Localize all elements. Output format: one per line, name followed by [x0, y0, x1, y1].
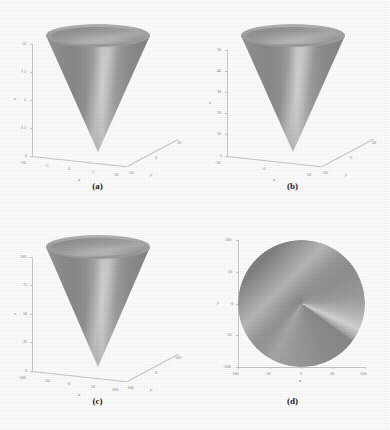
panel-a-zticklabel-5: 5: [24, 97, 26, 102]
panel-c-xticklabel-50: 50: [91, 384, 95, 389]
panel-d-xtick-2: [302, 367, 303, 369]
panel-d-xticklabel-m100: -100: [231, 371, 239, 376]
panel-a-xticklabel-10: 10: [114, 172, 118, 177]
panel-d-yticklabel-100: 100: [225, 237, 231, 242]
panel-c-xticklabel-0: 0: [68, 381, 70, 386]
cone-rim-inner: [51, 238, 146, 257]
panel-c-ztick-1: [30, 285, 32, 286]
panel-c-ztick-3: [30, 342, 32, 343]
cone-inner-shading: [247, 29, 339, 44]
panel-b-zticklabel-50: 50: [217, 47, 221, 52]
panel-a-yticklabel-m10: -10: [128, 170, 134, 175]
panel-c-y-axis: [127, 354, 179, 382]
panel-d-yticklabel-m50: -50: [226, 332, 232, 337]
panel-a-cone-surface: [46, 24, 150, 152]
panel-d-xticklabel-50: 50: [330, 371, 334, 376]
panel-c-xticklabel-m50: -50: [44, 378, 50, 383]
panel-c-zticklabel-50: 50: [23, 311, 27, 316]
panel-b-z-axis-label: z: [209, 100, 211, 105]
cone-inner-shading: [52, 29, 144, 44]
cone-body: [46, 235, 150, 367]
panel-d-ytick-0: [236, 240, 238, 241]
panel-a-xticklabel-m10: -10: [20, 160, 26, 165]
panel-a-zticklabel-2_5: 2.5: [21, 125, 26, 130]
cone-rim-outer: [241, 24, 345, 47]
panel-a-ztick-3: [30, 128, 32, 129]
panel-c: 100 75 50 25 0 z -100 -50 0 50 100 x -10…: [0, 215, 195, 430]
panel-b-ztick-3: [225, 113, 227, 114]
panel-c-xticklabel-m100: -100: [18, 375, 26, 380]
panel-a-ztick-2: [30, 100, 32, 101]
panel-c-plot: 100 75 50 25 0 z -100 -50 0 50 100 x -10…: [0, 215, 195, 405]
cone-rim-outer: [46, 235, 150, 259]
figure-canvas: 10 7.5 5 2.5 0 z -10 -5 0 5 10 x -10 0 1…: [0, 0, 390, 430]
panel-c-caption: (c): [0, 396, 195, 406]
panel-a-zticklabel-10: 10: [22, 41, 26, 46]
panel-d-xticklabel-100: 100: [360, 371, 366, 376]
panel-a-y-axis-label: y: [150, 172, 152, 177]
panel-d-xtick-3: [333, 367, 334, 369]
panel-a-ztick-1: [30, 72, 32, 73]
panel-a-xticklabel-0: 0: [68, 166, 70, 171]
cone-body: [241, 24, 345, 152]
panel-b-xticklabel-m50: -50: [215, 160, 221, 165]
panel-a-zticklabel-7_5: 7.5: [21, 69, 26, 74]
panel-c-zticklabel-75: 75: [23, 282, 27, 287]
cone-inner-shading: [52, 240, 144, 256]
panel-a: 10 7.5 5 2.5 0 z -10 -5 0 5 10 x -10 0 1…: [0, 0, 195, 215]
panel-c-z-axis: [32, 257, 33, 371]
panel-b-caption: (b): [195, 181, 390, 191]
panel-d-xticklabel-m50: -50: [265, 371, 271, 376]
panel-b-y-axis: [322, 139, 374, 167]
panel-b-zticklabel-30: 30: [217, 89, 221, 94]
panel-b-zticklabel-0: 0: [220, 153, 222, 158]
panel-b-ztick-0: [225, 50, 227, 51]
panel-b-x-axis: [227, 156, 322, 167]
panel-d-xticklabel-0: 0: [300, 371, 302, 376]
panel-c-ztick-0: [30, 257, 32, 258]
panel-b-yticklabel-50: 50: [372, 140, 376, 145]
panel-b-xticklabel-50: 50: [307, 172, 311, 177]
panel-b-zticklabel-40: 40: [217, 68, 221, 73]
panel-b-zticklabel-10: 10: [217, 131, 221, 136]
disc-vignette: [238, 240, 365, 367]
panel-a-xticklabel-m5: -5: [45, 163, 49, 168]
cone-edge-shading: [46, 24, 150, 152]
panel-d-ytick-1: [236, 272, 238, 273]
panel-d-cone-top-view: [238, 240, 365, 367]
panel-b-yticklabel-0: 0: [350, 155, 352, 160]
panel-d-yticklabel-m100: -100: [223, 364, 231, 369]
panel-a-z-axis: [32, 44, 33, 156]
panel-a-plot: 10 7.5 5 2.5 0 z -10 -5 0 5 10 x -10 0 1…: [0, 0, 195, 190]
panel-a-zticklabel-0: 0: [25, 153, 27, 158]
panel-d-ytick-3: [236, 335, 238, 336]
panel-d-caption: (d): [195, 396, 390, 406]
panel-a-yticklabel-0: 0: [155, 155, 157, 160]
panel-b-z-axis: [227, 50, 228, 156]
panel-c-zticklabel-0: 0: [25, 368, 27, 373]
panel-c-zticklabel-100: 100: [20, 254, 26, 259]
panel-d-x-axis-label: x: [299, 378, 301, 383]
cone-edge-shading: [241, 24, 345, 152]
panel-c-z-axis-label: z: [14, 311, 16, 316]
panel-d-xtick-1: [270, 367, 271, 369]
panel-d: 100 50 0 -50 -100 y -100 -50 0 50 100 x: [195, 215, 390, 430]
panel-b-cone-surface: [241, 24, 345, 152]
panel-d-yticklabel-50: 50: [228, 269, 232, 274]
panel-b-yticklabel-m50: -50: [322, 170, 328, 175]
panel-c-ztick-2: [30, 314, 32, 315]
panel-d-xtick-4: [365, 367, 366, 369]
cone-rim-outer: [46, 24, 150, 47]
panel-a-yticklabel-10: 10: [177, 140, 181, 145]
panel-a-ztick-0: [30, 44, 32, 45]
panel-d-y-axis-label: y: [217, 300, 219, 305]
cone-edge-shading: [46, 235, 150, 367]
panel-c-zticklabel-25: 25: [23, 339, 27, 344]
panel-c-yticklabel-0: 0: [155, 370, 157, 375]
panel-b-ztick-2: [225, 92, 227, 93]
cone-highlight: [46, 235, 150, 367]
panel-b-ztick-1: [225, 71, 227, 72]
panel-c-yticklabel-m100: -100: [126, 385, 134, 390]
panel-a-xticklabel-5: 5: [92, 169, 94, 174]
cone-highlight: [46, 24, 150, 152]
